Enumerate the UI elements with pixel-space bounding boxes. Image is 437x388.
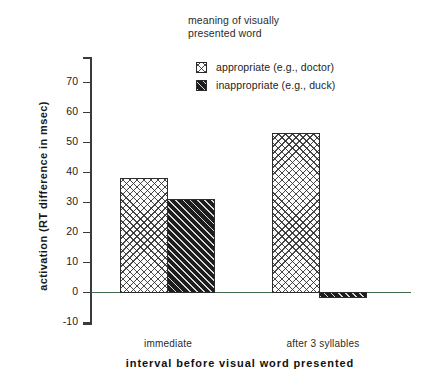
legend-swatch-inappropriate-icon xyxy=(196,80,207,91)
bar-chart-figure: meaning of visually presented word appro… xyxy=(0,0,437,388)
y-tick-label-10: 10 xyxy=(48,255,78,267)
x-tick-label-after-3-syllables: after 3 syllables xyxy=(268,338,378,349)
legend-item-appropriate: appropriate (e.g., doctor) xyxy=(196,58,335,76)
x-axis-title: interval before visual word presented xyxy=(60,357,420,369)
legend: appropriate (e.g., doctor) inappropriate… xyxy=(196,58,335,94)
legend-item-inappropriate: inappropriate (e.g., duck) xyxy=(196,76,335,94)
y-tick-label-20: 20 xyxy=(48,225,78,237)
bar-after3syllables-inappropriate xyxy=(319,292,367,298)
y-axis-line xyxy=(90,57,92,325)
y-tick-70 xyxy=(83,82,91,83)
bar-immediate-inappropriate xyxy=(167,199,215,293)
x-tick-label-immediate: immediate xyxy=(118,338,218,349)
y-tick-label-0: 0 xyxy=(48,285,78,297)
y-tick-30 xyxy=(83,202,91,203)
y-tick-label-40: 40 xyxy=(48,165,78,177)
y-tick-60 xyxy=(83,112,91,113)
y-tick-40 xyxy=(83,172,91,173)
legend-title: meaning of visually presented word xyxy=(188,14,279,40)
legend-label-appropriate: appropriate (e.g., doctor) xyxy=(216,58,334,76)
y-tick-50 xyxy=(83,142,91,143)
bar-after3syllables-appropriate xyxy=(272,133,320,293)
bar-immediate-appropriate xyxy=(120,178,168,293)
y-tick-label-minus10: -10 xyxy=(48,315,78,327)
y-tick-label-60: 60 xyxy=(48,105,78,117)
y-tick-minus10 xyxy=(83,322,91,323)
y-tick-20 xyxy=(83,232,91,233)
y-tick-0 xyxy=(83,292,91,293)
legend-label-inappropriate: inappropriate (e.g., duck) xyxy=(216,76,335,94)
y-tick-label-50: 50 xyxy=(48,135,78,147)
y-tick-label-30: 30 xyxy=(48,195,78,207)
y-axis-top-cap xyxy=(83,57,91,59)
y-axis-title: activation (RT difference in msec) xyxy=(37,71,49,321)
legend-swatch-appropriate-icon xyxy=(196,62,207,73)
y-tick-label-70: 70 xyxy=(48,75,78,87)
y-tick-10 xyxy=(83,262,91,263)
